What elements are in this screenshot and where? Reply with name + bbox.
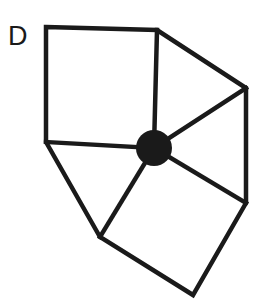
center-vertex-dot (136, 130, 172, 166)
polygon-net-diagram (0, 0, 267, 304)
